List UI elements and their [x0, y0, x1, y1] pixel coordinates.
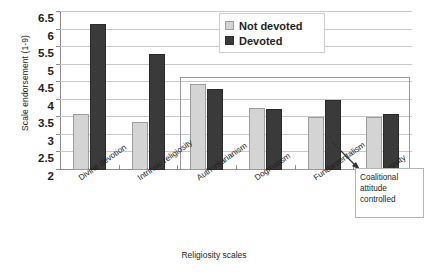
gridline	[60, 11, 412, 12]
bar	[90, 24, 106, 170]
bar	[132, 122, 148, 170]
legend-item-not-devoted: Not devoted	[225, 18, 319, 33]
y-axis-tick	[56, 116, 60, 117]
annotation-line-3: controlled	[360, 194, 419, 205]
bar	[308, 117, 324, 170]
y-axis-tick	[56, 81, 60, 82]
annotation-callout: Coalitional attitude controlled	[355, 168, 424, 218]
annotation-line-2: attitude	[360, 183, 419, 194]
bar	[249, 108, 265, 170]
legend-item-devoted: Devoted	[225, 33, 319, 48]
gridline	[60, 99, 412, 100]
gridline	[60, 116, 412, 117]
y-axis-tick	[56, 64, 60, 65]
gridline	[60, 64, 412, 65]
y-axis-tick	[56, 99, 60, 100]
y-axis-tick	[56, 29, 60, 30]
x-axis-separator	[119, 165, 120, 170]
y-axis-title: Scale endorsement (1-9)	[20, 3, 30, 163]
bar	[149, 54, 165, 170]
y-axis-tick	[56, 11, 60, 12]
bar	[73, 114, 89, 170]
y-axis-tick	[56, 46, 60, 47]
legend-label-not-devoted: Not devoted	[239, 20, 303, 32]
legend-label-devoted: Devoted	[239, 35, 282, 47]
y-axis-tick	[56, 169, 60, 170]
legend-swatch-not-devoted-icon	[225, 21, 234, 30]
y-axis-tick	[56, 151, 60, 152]
gridline	[60, 134, 412, 135]
bar	[190, 84, 206, 170]
annotation-line-1: Coalitional	[360, 172, 419, 183]
legend-swatch-devoted-icon	[225, 36, 234, 45]
y-axis-tick	[56, 134, 60, 135]
x-axis-title: Religiosity scales	[0, 250, 428, 260]
x-axis-separator	[295, 165, 296, 170]
bar-chart-figure: Scale endorsement (1-9) 22.533.544.555.5…	[0, 0, 428, 273]
x-axis-separator	[177, 165, 178, 170]
x-axis-separator	[236, 165, 237, 170]
legend: Not devoted Devoted	[219, 13, 325, 53]
gridline	[60, 81, 412, 82]
